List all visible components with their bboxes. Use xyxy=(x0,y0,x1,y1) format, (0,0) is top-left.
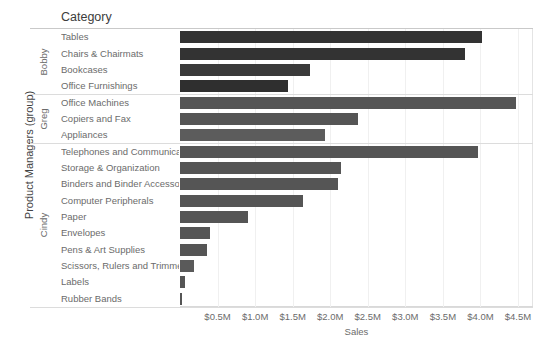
category-label: Copiers and Fax xyxy=(61,113,179,124)
group-axis-column: BobbyGregCindy xyxy=(30,29,56,307)
category-label: Pens & Art Supplies xyxy=(61,244,179,255)
category-label: Chairs & Chairmats xyxy=(61,48,179,59)
group-band-bobby: Bobby xyxy=(30,29,56,94)
category-label: Office Furnishings xyxy=(61,80,179,91)
category-label: Computer Peripherals xyxy=(61,195,179,206)
plot-area xyxy=(180,29,533,307)
bar[interactable] xyxy=(180,244,207,256)
bar-chart: Product Managers (group) BobbyGregCindy … xyxy=(0,0,559,357)
group-label: Cindy xyxy=(38,213,49,237)
category-header: Category xyxy=(61,10,112,24)
category-label: Telephones and Communicati.. xyxy=(61,146,179,157)
bar[interactable] xyxy=(180,178,338,190)
category-label: Rubber Bands xyxy=(61,293,179,304)
group-label: Bobby xyxy=(38,48,49,75)
x-tick-label: $1.0M xyxy=(242,311,268,322)
bar[interactable] xyxy=(180,227,210,239)
x-tick-label: $2.5M xyxy=(355,311,381,322)
bar[interactable] xyxy=(180,113,358,125)
gridline xyxy=(405,29,406,307)
group-band-cindy: Cindy xyxy=(30,143,56,307)
bar[interactable] xyxy=(180,31,482,43)
gridline xyxy=(518,29,519,307)
bar[interactable] xyxy=(180,195,303,207)
x-tick-label: $1.5M xyxy=(279,311,305,322)
category-label: Storage & Organization xyxy=(61,162,179,173)
bar[interactable] xyxy=(180,260,194,272)
category-label: Paper xyxy=(61,211,179,222)
group-label: Greg xyxy=(38,108,49,129)
x-tick-label: $4.5M xyxy=(505,311,531,322)
bar[interactable] xyxy=(180,211,248,223)
bar[interactable] xyxy=(180,146,478,158)
bar[interactable] xyxy=(180,48,465,60)
bar[interactable] xyxy=(180,293,182,305)
plot-right-border xyxy=(532,29,533,307)
category-label: Binders and Binder Accessori xyxy=(61,178,179,189)
bar[interactable] xyxy=(180,64,310,76)
bar[interactable] xyxy=(180,276,185,288)
gridline xyxy=(368,29,369,307)
bottom-separator xyxy=(30,307,533,308)
gridline xyxy=(480,29,481,307)
category-label: Tables xyxy=(61,31,179,42)
category-axis-column: Category TablesChairs & ChairmatsBookcas… xyxy=(57,10,180,307)
x-tick-label: $4.0M xyxy=(467,311,493,322)
group-separator xyxy=(30,94,533,95)
category-label: Scissors, Rulers and Trimmers xyxy=(61,260,179,271)
category-label: Envelopes xyxy=(61,227,179,238)
bar[interactable] xyxy=(180,80,288,92)
group-band-greg: Greg xyxy=(30,94,56,143)
group-separator xyxy=(30,143,533,144)
category-label: Office Machines xyxy=(61,97,179,108)
category-label: Bookcases xyxy=(61,64,179,75)
bar[interactable] xyxy=(180,162,341,174)
x-tick-label: $3.0M xyxy=(392,311,418,322)
x-axis-title: Sales xyxy=(180,326,533,337)
bar[interactable] xyxy=(180,97,516,109)
gridline xyxy=(443,29,444,307)
category-label: Appliances xyxy=(61,129,179,140)
bar[interactable] xyxy=(180,129,325,141)
x-tick-label: $3.5M xyxy=(430,311,456,322)
category-label: Labels xyxy=(61,276,179,287)
header-separator xyxy=(30,28,533,29)
x-tick-label: $2.0M xyxy=(317,311,343,322)
x-tick-label: $0.5M xyxy=(204,311,230,322)
